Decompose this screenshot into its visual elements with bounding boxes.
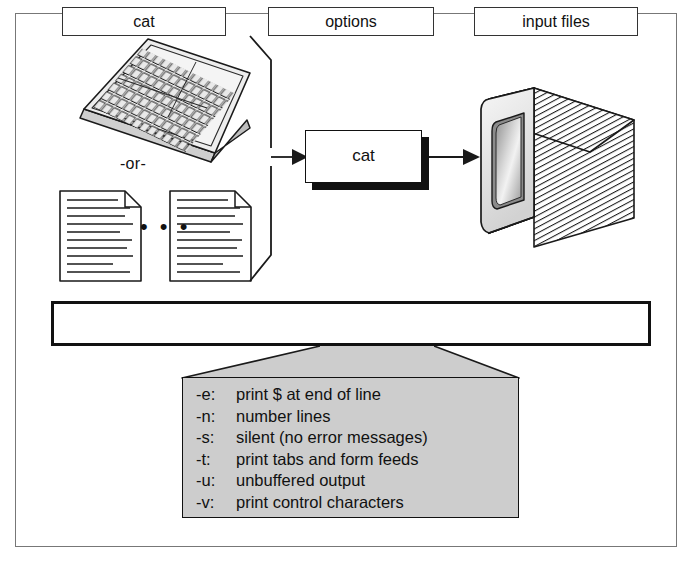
arrow-right-icon bbox=[423, 149, 480, 165]
syntax-bar bbox=[51, 301, 651, 346]
documents-ellipsis: • • • bbox=[140, 222, 190, 232]
option-flag: -t: bbox=[196, 450, 236, 469]
option-description: number lines bbox=[236, 407, 516, 426]
arrow-right-icon bbox=[271, 149, 308, 165]
keyboard-icon bbox=[80, 39, 250, 162]
document-page-icon bbox=[60, 191, 141, 281]
syntax-part-input-files: input files bbox=[474, 7, 638, 36]
option-row: -e: print $ at end of line bbox=[196, 385, 516, 407]
option-description: unbuffered output bbox=[236, 471, 516, 490]
syntax-part-options: options bbox=[268, 7, 434, 36]
input-brace-icon bbox=[250, 36, 271, 281]
option-flag: -n: bbox=[196, 407, 236, 426]
option-description: print $ at end of line bbox=[236, 385, 516, 404]
option-row: -u: unbuffered output bbox=[196, 471, 516, 493]
option-flag: -e: bbox=[196, 385, 236, 404]
input-or-label: -or- bbox=[93, 155, 173, 173]
option-row: -t: print tabs and form feeds bbox=[196, 450, 516, 472]
option-row: -n: number lines bbox=[196, 407, 516, 429]
option-flag: -v: bbox=[196, 493, 236, 512]
option-flag: -s: bbox=[196, 428, 236, 447]
option-row: -s: silent (no error messages) bbox=[196, 428, 516, 450]
figure-root: cat -or- • • • cat options input files -… bbox=[0, 0, 694, 562]
option-description: silent (no error messages) bbox=[236, 428, 516, 447]
funnel-callout-icon bbox=[182, 346, 519, 378]
crt-monitor-icon bbox=[481, 88, 634, 247]
option-description: print tabs and form feeds bbox=[236, 450, 516, 469]
option-row: -v: print control characters bbox=[196, 493, 516, 515]
option-flag: -u: bbox=[196, 471, 236, 490]
cat-process-label: cat bbox=[305, 146, 422, 166]
syntax-part-command: cat bbox=[62, 7, 226, 36]
options-list: -e: print $ at end of line -n: number li… bbox=[196, 385, 516, 514]
option-description: print control characters bbox=[236, 493, 516, 512]
